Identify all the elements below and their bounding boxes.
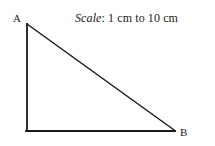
vertex-label-a: A	[13, 13, 21, 24]
vertex-label-b: B	[180, 127, 187, 138]
scale-triangle-figure: A B Scale: 1 cm to 10 cm	[0, 0, 215, 146]
scale-annotation-keyword: Scale	[75, 11, 102, 25]
triangle-hypotenuse	[27, 24, 176, 131]
scale-annotation-value: : 1 cm to 10 cm	[102, 11, 179, 25]
scale-annotation: Scale: 1 cm to 10 cm	[75, 12, 178, 24]
